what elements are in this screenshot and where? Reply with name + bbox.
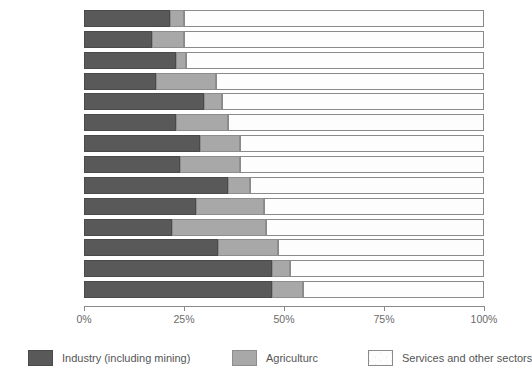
x-axis-tick-label: 0%: [76, 313, 91, 325]
legend-item-agriculture[interactable]: Agriculturc: [232, 345, 318, 371]
bar-segment-services: [184, 10, 484, 27]
bar-segment-industry: [84, 239, 218, 256]
bar-segment-services: [266, 219, 484, 236]
x-axis-tick: [284, 306, 285, 311]
bar-segment-services: [186, 52, 484, 69]
bar-row: [84, 114, 484, 131]
x-axis-tick: [384, 306, 385, 311]
bar-segment-agriculture: [156, 73, 216, 90]
legend-label-services: Services and other sectors: [402, 352, 532, 364]
bar-segment-agriculture: [272, 281, 303, 298]
bar-row: [84, 93, 484, 110]
bar-segment-industry: [84, 177, 228, 194]
bar-segment-industry: [84, 10, 170, 27]
x-axis-tick: [484, 306, 485, 311]
services-swatch: [368, 350, 393, 366]
bar-segment-industry: [84, 156, 180, 173]
x-axis: 0%25%50%75%100%: [84, 306, 485, 307]
bar-segment-agriculture: [180, 156, 240, 173]
bar-segment-agriculture: [218, 239, 278, 256]
bar-segment-services: [303, 281, 484, 298]
bar-segment-industry: [84, 93, 204, 110]
bar-segment-industry: [84, 31, 152, 48]
bar-segment-industry: [84, 260, 272, 277]
bar-segment-industry: [84, 219, 172, 236]
bar-segment-agriculture: [200, 135, 240, 152]
bar-segment-services: [184, 31, 484, 48]
bar-segment-services: [290, 260, 484, 277]
bar-segment-agriculture: [272, 260, 290, 277]
bar-segment-agriculture: [176, 114, 228, 131]
bar-segment-services: [222, 93, 484, 110]
bar-segment-services: [250, 177, 484, 194]
bar-row: [84, 156, 484, 173]
legend-item-services[interactable]: Services and other sectors: [368, 345, 532, 371]
bar-segment-agriculture: [172, 219, 266, 236]
bar-row: [84, 52, 484, 69]
legend-label-agriculture: Agriculturc: [266, 352, 318, 364]
x-axis-tick-label: 100%: [471, 313, 498, 325]
bar-row: [84, 177, 484, 194]
bar-row: [84, 135, 484, 152]
bar-row: [84, 10, 484, 27]
bar-segment-industry: [84, 135, 200, 152]
bar-segment-services: [278, 239, 484, 256]
industry-swatch: [28, 350, 53, 366]
x-axis-tick-label: 75%: [373, 313, 394, 325]
bar-segment-agriculture: [204, 93, 222, 110]
bar-row: [84, 73, 484, 90]
bar-segment-industry: [84, 198, 196, 215]
bar-row: [84, 219, 484, 236]
bar-segment-industry: [84, 281, 272, 298]
legend-label-industry: Industry (including mining): [62, 352, 190, 364]
chart-legend: Industry (including mining) Agriculturc …: [0, 345, 512, 385]
bar-segment-services: [264, 198, 484, 215]
bar-row: [84, 281, 484, 298]
bar-segment-industry: [84, 114, 176, 131]
legend-item-industry[interactable]: Industry (including mining): [28, 345, 190, 371]
bar-segment-industry: [84, 52, 176, 69]
bar-segment-services: [216, 73, 484, 90]
bar-segment-agriculture: [196, 198, 264, 215]
bar-segment-services: [240, 156, 484, 173]
bar-segment-agriculture: [170, 10, 184, 27]
bar-row: [84, 31, 484, 48]
bar-row: [84, 239, 484, 256]
bar-segment-services: [228, 114, 484, 131]
bar-segment-services: [240, 135, 484, 152]
x-axis-tick-label: 50%: [273, 313, 294, 325]
agriculture-swatch: [232, 350, 257, 366]
plot-area: [84, 10, 485, 302]
bar-row: [84, 260, 484, 277]
bar-segment-industry: [84, 73, 156, 90]
bar-segment-agriculture: [228, 177, 250, 194]
x-axis-tick: [84, 306, 85, 311]
bar-segment-agriculture: [176, 52, 186, 69]
bar-segment-agriculture: [152, 31, 184, 48]
x-axis-tick: [184, 306, 185, 311]
bar-row: [84, 198, 484, 215]
x-axis-tick-label: 25%: [173, 313, 194, 325]
